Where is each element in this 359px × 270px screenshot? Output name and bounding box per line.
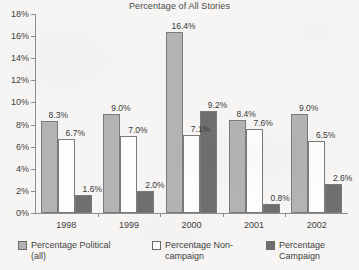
x-axis-separator-tick bbox=[98, 213, 99, 217]
y-axis-tick-label: 4% bbox=[16, 164, 29, 174]
bar bbox=[229, 120, 246, 213]
y-axis-tick bbox=[31, 80, 35, 81]
legend-label: Percentage Political (all) bbox=[31, 240, 111, 262]
y-axis-tick bbox=[31, 147, 35, 148]
y-axis-tick-label: 8% bbox=[16, 120, 29, 130]
y-axis-tick-label: 6% bbox=[16, 142, 29, 152]
y-axis-tick bbox=[31, 102, 35, 103]
x-axis-category-label: 2001 bbox=[244, 220, 264, 230]
bar bbox=[103, 114, 120, 214]
bar-value-label: 7.0% bbox=[128, 125, 147, 135]
bar bbox=[41, 121, 58, 213]
x-axis-category-label: 1999 bbox=[119, 220, 139, 230]
legend-item[interactable]: Percentage Political (all) bbox=[18, 240, 111, 262]
bar-value-label: 6.7% bbox=[66, 128, 85, 138]
y-axis-tick-label: 2% bbox=[16, 186, 29, 196]
y-axis-tick-label: 18% bbox=[11, 9, 29, 19]
y-axis-tick bbox=[31, 58, 35, 59]
bar bbox=[137, 191, 154, 213]
bar-value-label: 8.3% bbox=[49, 110, 68, 120]
chart-legend: Percentage Political (all)Percentage Non… bbox=[18, 240, 348, 268]
bar-value-label: 6.5% bbox=[316, 130, 335, 140]
bar-value-label: 9.0% bbox=[299, 103, 318, 113]
bar-value-label: 1.6% bbox=[83, 184, 102, 194]
bar-value-label: 7.1% bbox=[191, 124, 210, 134]
legend-item[interactable]: Percentage Campaign bbox=[266, 240, 325, 262]
y-axis-tick bbox=[31, 14, 35, 15]
bar bbox=[58, 139, 75, 213]
y-axis-tick bbox=[31, 169, 35, 170]
plot-area: 0%2%4%6%8%10%12%14%16%18% 8.3%6.7%1.6%9.… bbox=[35, 14, 348, 213]
bar-value-label: 2.6% bbox=[333, 173, 352, 183]
x-axis-separator-tick bbox=[223, 213, 224, 217]
y-axis-tick-label: 10% bbox=[11, 97, 29, 107]
legend-swatch-icon bbox=[152, 241, 161, 250]
bar-value-label: 2.0% bbox=[145, 180, 164, 190]
x-axis-separator-tick bbox=[285, 213, 286, 217]
bar bbox=[166, 32, 183, 213]
bar-value-label: 9.2% bbox=[208, 100, 227, 110]
legend-swatch-icon bbox=[266, 241, 275, 250]
legend-label: Percentage Campaign bbox=[279, 240, 325, 262]
bar-value-label: 9.0% bbox=[111, 103, 130, 113]
legend-swatch-icon bbox=[18, 241, 27, 250]
bar-value-label: 0.8% bbox=[270, 193, 289, 203]
bar bbox=[183, 135, 200, 213]
bar bbox=[291, 114, 308, 214]
chart-title: Percentage of All Stories bbox=[0, 1, 359, 11]
legend-item[interactable]: Percentage Non- campaign bbox=[152, 240, 233, 262]
bar bbox=[325, 184, 342, 213]
y-axis-tick-label: 12% bbox=[11, 75, 29, 85]
x-axis-line bbox=[35, 213, 348, 214]
y-axis-line bbox=[35, 14, 36, 213]
bar bbox=[75, 195, 92, 213]
legend-label: Percentage Non- campaign bbox=[165, 240, 233, 262]
bar bbox=[263, 204, 280, 213]
bar-value-label: 7.6% bbox=[253, 118, 272, 128]
bar bbox=[246, 129, 263, 213]
y-axis-tick-label: 16% bbox=[11, 31, 29, 41]
x-axis-category-label: 2002 bbox=[307, 220, 327, 230]
y-axis-tick bbox=[31, 191, 35, 192]
y-axis-tick bbox=[31, 125, 35, 126]
bar-chart: Percentage of All Stories 0%2%4%6%8%10%1… bbox=[0, 0, 359, 270]
y-axis-tick-label: 14% bbox=[11, 53, 29, 63]
bar bbox=[308, 141, 325, 213]
x-axis-category-label: 2000 bbox=[181, 220, 201, 230]
y-axis-tick bbox=[31, 213, 35, 214]
x-axis-separator-tick bbox=[160, 213, 161, 217]
bar-value-label: 16.4% bbox=[171, 21, 195, 31]
y-axis-tick-label: 0% bbox=[16, 208, 29, 218]
y-axis-tick bbox=[31, 36, 35, 37]
bar bbox=[120, 136, 137, 213]
x-axis-category-label: 1998 bbox=[56, 220, 76, 230]
